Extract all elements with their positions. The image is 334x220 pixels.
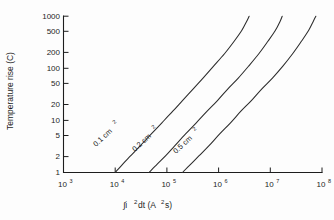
curve-label-0p1-sup: 2 bbox=[111, 119, 117, 125]
x-tick-label-1e8: 10 8 bbox=[317, 178, 332, 189]
x-axis-title-seconds: s) bbox=[165, 200, 172, 210]
y-tick-label-50: 50 bbox=[51, 79, 60, 88]
y-tick-label-10: 10 bbox=[51, 116, 60, 125]
y-tick-label-2: 2 bbox=[56, 152, 61, 161]
x-tick-label-1e6: 10 6 bbox=[213, 178, 228, 189]
x-tick-label-1e7-exponent: 7 bbox=[276, 178, 279, 184]
chart-axes-lines bbox=[64, 16, 323, 173]
y-tick-label-5: 5 bbox=[56, 131, 61, 140]
x-tick-label-1e7: 10 7 bbox=[265, 178, 280, 189]
curve-labels: 0.1 cm 2 0.2 cm 2 0.5 cm 2 bbox=[90, 119, 201, 156]
y-tick-label-100: 100 bbox=[47, 64, 61, 73]
curve-label-0p2: 0.2 cm 2 bbox=[129, 124, 160, 154]
x-tick-label-1e7-mantissa: 10 bbox=[265, 180, 274, 189]
x-tick-label-1e5-exponent: 5 bbox=[173, 178, 176, 184]
chart-figure: 1 2 5 10 20 50 100 200 500 1000 10 3 bbox=[0, 0, 334, 220]
x-tick-label-1e3-mantissa: 10 bbox=[58, 180, 67, 189]
x-axis-title: ∫i 2 dt (A 2 s) bbox=[122, 199, 172, 210]
curve-label-0p1: 0.1 cm 2 bbox=[90, 119, 121, 149]
curve-0p5-cm2 bbox=[182, 16, 315, 172]
x-axis-title-integral: ∫i bbox=[122, 200, 127, 210]
curve-0p2-cm2 bbox=[149, 16, 282, 172]
y-axis-ticks bbox=[64, 16, 69, 172]
x-tick-label-1e8-mantissa: 10 bbox=[317, 180, 326, 189]
curve-label-0p5-sup: 2 bbox=[191, 126, 197, 132]
curve-label-0p5: 0.5 cm 2 bbox=[170, 126, 201, 156]
x-axis-ticks bbox=[64, 168, 323, 173]
y-tick-label-20: 20 bbox=[51, 100, 60, 109]
x-tick-label-1e6-exponent: 6 bbox=[225, 178, 228, 184]
curve-label-0p2-text: 0.2 cm bbox=[130, 132, 153, 154]
chart-plot-area: 1 2 5 10 20 50 100 200 500 1000 10 3 bbox=[0, 0, 334, 220]
x-tick-label-1e5: 10 5 bbox=[161, 178, 176, 189]
y-tick-label-1000: 1000 bbox=[42, 12, 60, 21]
x-axis-title-dt: dt (A bbox=[138, 200, 156, 210]
x-tick-label-1e4: 10 4 bbox=[110, 178, 125, 189]
x-tick-label-1e4-exponent: 4 bbox=[121, 178, 124, 184]
x-tick-label-1e8-exponent: 8 bbox=[328, 178, 331, 184]
x-tick-label-1e3: 10 3 bbox=[58, 178, 73, 189]
x-tick-label-1e6-mantissa: 10 bbox=[213, 180, 222, 189]
y-axis-title: Temperature rise (C) bbox=[5, 52, 15, 130]
y-tick-label-500: 500 bbox=[47, 27, 61, 36]
curve-label-0p1-text: 0.1 cm bbox=[91, 127, 114, 149]
y-tick-label-1: 1 bbox=[56, 168, 61, 177]
x-tick-label-1e3-exponent: 3 bbox=[70, 178, 73, 184]
x-axis-tick-labels: 10 3 10 4 10 5 10 6 10 7 10 8 bbox=[58, 178, 331, 189]
x-tick-label-1e4-mantissa: 10 bbox=[110, 180, 119, 189]
y-axis-tick-labels: 1 2 5 10 20 50 100 200 500 1000 bbox=[42, 12, 60, 177]
x-tick-label-1e5-mantissa: 10 bbox=[161, 180, 170, 189]
chart-curves bbox=[115, 16, 316, 172]
y-tick-label-200: 200 bbox=[47, 48, 61, 57]
